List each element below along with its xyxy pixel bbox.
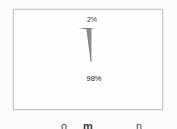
pie-chart[interactable]: [58, 28, 124, 95]
pie-label-small-slice: 2%: [77, 16, 107, 24]
pie-label-large-slice: 98%: [77, 74, 111, 83]
legend-item-1-label: o: [61, 121, 67, 129]
legend-item-2-label: m: [83, 121, 93, 129]
legend-item-2[interactable]: m: [83, 115, 93, 129]
pie-svg: [58, 28, 124, 95]
legend-item-3[interactable]: n: [136, 115, 142, 129]
pie-chart-screenshot: 2% 98% o m n: [0, 0, 177, 129]
pie-slice-2: [87, 29, 91, 62]
plot-area: 2% 98%: [14, 10, 162, 109]
legend-item-1[interactable]: o: [61, 115, 67, 129]
legend-strip-cutoff: o m n: [0, 113, 177, 129]
legend-item-3-label: n: [136, 121, 142, 129]
chart-frame: 2% 98%: [13, 9, 163, 110]
